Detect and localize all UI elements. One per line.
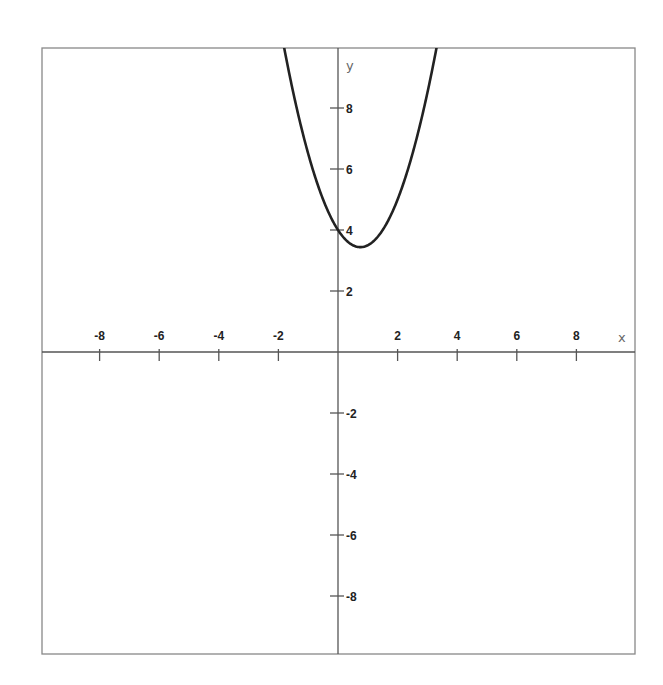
y-tick-label: -8 [346,590,357,604]
y-tick-label: -4 [346,468,357,482]
x-axis-label: x [618,330,626,345]
x-tick-label: 6 [513,329,520,343]
x-tick-label: -6 [154,329,165,343]
chart: -8-6-4-224688642-2-4-6-8 x y [0,0,663,685]
x-tick-label: 2 [394,329,401,343]
x-tick-label: -4 [213,329,224,343]
y-tick-label: 8 [346,102,353,116]
y-tick-label: 6 [346,163,353,177]
y-axis-label: y [346,58,354,73]
x-tick-label: -8 [94,329,105,343]
x-tick-label: 8 [573,329,580,343]
x-tick-label: 4 [454,329,461,343]
x-tick-label: -2 [273,329,284,343]
y-tick-label: 4 [346,224,353,238]
y-tick-label: -2 [346,407,357,421]
y-tick-label: 2 [346,285,353,299]
y-tick-label: -6 [346,529,357,543]
